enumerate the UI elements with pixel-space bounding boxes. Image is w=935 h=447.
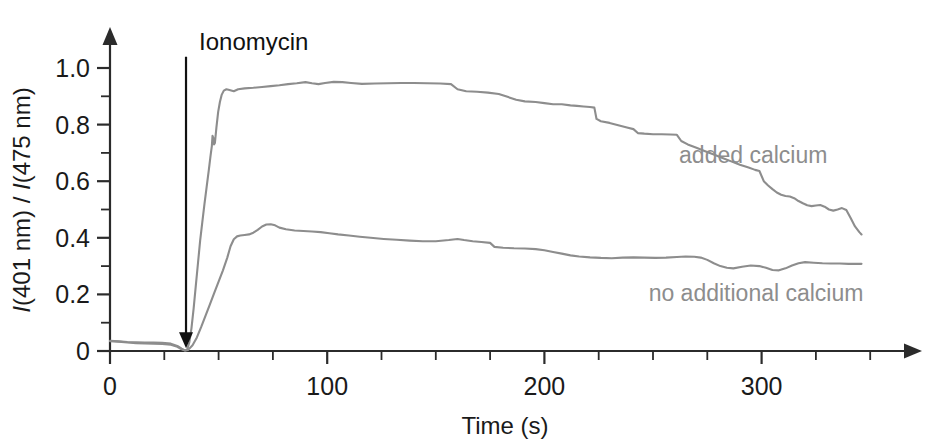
y-axis-tick-label: 0.4 xyxy=(55,224,90,252)
x-axis-tick-label: 300 xyxy=(741,372,783,400)
chart-svg: 010020030000.20.40.60.81.0added calciumn… xyxy=(0,0,935,447)
y-axis-tick-label: 0.6 xyxy=(55,167,90,195)
series-label-no-additional-calcium: no additional calcium xyxy=(649,280,864,306)
y-axis-title: I(401 nm) / I(475 nm) xyxy=(8,87,35,312)
data-line-added-calcium xyxy=(110,82,862,351)
y-axis-tick-label: 0.8 xyxy=(55,111,90,139)
x-axis-arrowhead-icon xyxy=(904,344,922,359)
y-axis-tick-label: 0 xyxy=(76,337,90,365)
data-series xyxy=(110,82,862,351)
annotations xyxy=(179,57,193,348)
y-axis-tick-label: 1.0 xyxy=(55,54,90,82)
y-axis-arrowhead-icon xyxy=(103,27,118,45)
chart-text-labels: 010020030000.20.40.60.81.0added calciumn… xyxy=(8,28,863,439)
x-axis-tick-label: 0 xyxy=(103,372,117,400)
x-axis-title: Time (s) xyxy=(461,412,548,439)
x-axis-tick-label: 100 xyxy=(306,372,348,400)
y-axis-tick-label: 0.2 xyxy=(55,280,90,308)
figure-container: 010020030000.20.40.60.81.0added calciumn… xyxy=(0,0,935,447)
axes xyxy=(97,27,922,364)
x-axis-tick-label: 200 xyxy=(524,372,566,400)
series-label-added-calcium: added calcium xyxy=(679,142,827,168)
ionomycin-annotation-label: Ionomycin xyxy=(199,28,308,55)
